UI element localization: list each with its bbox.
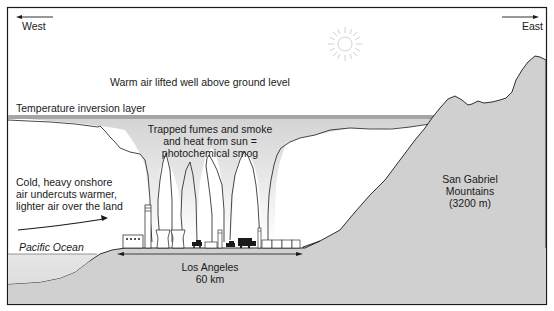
cold-air-label-line: lighter air over the land: [16, 200, 123, 212]
factory-icon: [123, 235, 143, 248]
smokestack-icon: [145, 205, 151, 248]
city-label: Los Angeles 60 km: [175, 261, 245, 285]
west-label: West: [22, 20, 46, 32]
cold-air-label-line: Cold, heavy onshore: [16, 176, 123, 188]
city-width: 60 km: [175, 273, 245, 285]
cold-air-label: Cold, heavy onshore air undercuts warmer…: [16, 176, 123, 212]
diagram-graphic: [0, 0, 554, 311]
smog-label-line: photochemical smog: [145, 147, 275, 159]
smokestack-icon: [258, 228, 261, 248]
cooling-tower-icon: [156, 230, 170, 248]
ocean-label: Pacific Ocean: [19, 241, 84, 253]
smog-label-line: and heat from sun =: [145, 135, 275, 147]
cold-air-label-line: air undercuts warmer,: [16, 188, 123, 200]
mountains-label-line: Mountains: [430, 185, 510, 197]
smog-label: Trapped fumes and smoke and heat from su…: [145, 123, 275, 159]
smokestack-icon: [218, 230, 222, 248]
house-icon: [262, 240, 300, 248]
warm-air-label: Warm air lifted well above ground level: [110, 76, 290, 88]
mountains-label-line: San Gabriel: [430, 173, 510, 185]
mountains-label-line: (3200 m): [430, 197, 510, 209]
house-icon: [205, 242, 217, 248]
east-label: East: [522, 20, 543, 32]
inversion-layer-label: Temperature inversion layer: [16, 102, 146, 114]
smog-label-line: Trapped fumes and smoke: [145, 123, 275, 135]
city-name: Los Angeles: [175, 261, 245, 273]
mountains-label: San Gabriel Mountains (3200 m): [430, 173, 510, 209]
inversion-layer-line: [8, 115, 438, 119]
cooling-tower-icon: [171, 230, 185, 248]
smog-diagram: West East Warm air lifted well above gro…: [0, 0, 554, 311]
